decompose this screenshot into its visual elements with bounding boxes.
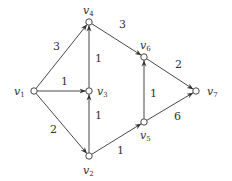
node-label-v7: v7: [207, 85, 218, 99]
edge-weight-v5-v6: 1: [150, 87, 157, 100]
node-label-v1: v1: [14, 85, 25, 99]
edge-weight-v1-v4: 3: [53, 40, 60, 53]
edge-weight-v3-v4: 1: [95, 52, 102, 65]
node-label-v5: v5: [140, 129, 151, 143]
edge-v1-v2: [36, 93, 87, 153]
node-label-v4: v4: [83, 4, 94, 18]
edge-v6-v7: [147, 59, 194, 89]
node-label-v3: v3: [97, 85, 108, 99]
edge-weight-v4-v6: 3: [119, 18, 126, 31]
node-label-v6: v6: [140, 39, 151, 53]
edge-weight-v6-v7: 2: [175, 58, 182, 71]
node-v4: [86, 19, 92, 25]
node-label-v2: v2: [83, 164, 94, 178]
edge-weight-v1-v3: 1: [61, 75, 68, 88]
node-v3: [86, 88, 92, 94]
node-v7: [193, 88, 199, 94]
directed-graph: 3121131126 v1v2v3v4v5v6v7: [0, 0, 232, 181]
edge-v4-v6: [92, 24, 142, 56]
node-v5: [141, 119, 147, 125]
edge-weight-v5-v7: 6: [174, 110, 181, 123]
node-v1: [31, 88, 37, 94]
node-v2: [86, 153, 92, 159]
node-v6: [141, 54, 147, 60]
edge-weight-v1-v2: 2: [50, 123, 57, 136]
edge-weight-v2-v5: 1: [117, 144, 124, 157]
edge-weight-v2-v3: 1: [95, 109, 102, 122]
